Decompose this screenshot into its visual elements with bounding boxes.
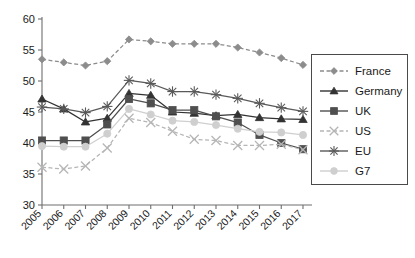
series-layer [37, 36, 308, 174]
x-tick-label-2016: 2016 [258, 207, 283, 232]
data-point-asterisk [254, 98, 264, 108]
data-point-circle [38, 143, 45, 150]
y-tick-label-35: 35 [23, 168, 35, 180]
data-point-diamond [82, 62, 89, 69]
data-point-triangle [38, 95, 46, 102]
data-point-circle [147, 111, 154, 118]
x-tick-label-2011: 2011 [149, 207, 174, 232]
data-point-square [331, 108, 338, 115]
data-point-cross [59, 165, 68, 174]
legend-item-eu[interactable]: EU [312, 141, 407, 161]
data-point-circle [82, 143, 89, 150]
data-point-cross [146, 118, 155, 127]
data-point-diamond [38, 56, 45, 63]
x-tick-label-2006: 2006 [40, 207, 65, 232]
legend-item-uk[interactable]: UK [312, 101, 407, 121]
data-point-circle [299, 131, 306, 138]
x-tick-label-2009: 2009 [105, 207, 130, 232]
x-tick-label-2010: 2010 [127, 207, 152, 232]
y-tick-label-50: 50 [23, 75, 35, 87]
legend-item-france[interactable]: France [312, 61, 407, 81]
data-point-circle [125, 105, 132, 112]
series-france [38, 36, 306, 69]
data-point-asterisk [189, 86, 199, 96]
data-point-circle [234, 125, 241, 132]
y-tick-label-60: 60 [23, 13, 35, 25]
data-point-cross [190, 135, 199, 144]
x-tick-label-2017: 2017 [279, 207, 304, 232]
data-point-diamond [256, 49, 263, 56]
data-point-diamond [147, 38, 154, 45]
data-point-square [147, 100, 154, 107]
data-point-square [104, 121, 111, 128]
data-point-asterisk [276, 102, 286, 112]
data-point-asterisk [59, 104, 69, 114]
x-axis-tick-labels: 2005200620072008200920102011201220132014… [18, 207, 304, 232]
x-tick-label-2014: 2014 [214, 207, 239, 232]
x-tick-label-2013: 2013 [192, 207, 217, 232]
data-point-diamond [278, 54, 285, 61]
data-point-asterisk [329, 146, 339, 156]
y-tick-label-55: 55 [23, 44, 35, 56]
legend-swatch-square-icon [318, 104, 350, 118]
data-point-triangle [234, 110, 242, 117]
data-point-diamond [104, 58, 111, 65]
data-point-asterisk [146, 78, 156, 88]
legend-swatch-diamond-icon [318, 64, 350, 78]
data-point-asterisk [211, 89, 221, 99]
data-point-asterisk [233, 93, 243, 103]
data-point-circle [212, 121, 219, 128]
data-point-diamond [191, 40, 198, 47]
y-axis-tick-labels: 30354045505560 [23, 13, 35, 211]
chart-legend: FranceGermanyUKUSEUG7 [311, 54, 408, 185]
data-point-cross [168, 127, 177, 136]
data-point-circle [60, 143, 67, 150]
x-tick-label-2007: 2007 [62, 207, 87, 232]
data-point-asterisk [167, 86, 177, 96]
y-tick-label-45: 45 [23, 106, 35, 118]
data-point-asterisk [298, 106, 308, 116]
legend-swatch-cross-icon [318, 124, 350, 138]
data-point-circle [331, 168, 338, 175]
data-point-circle [278, 129, 285, 136]
data-point-square [191, 107, 198, 114]
legend-label: US [355, 124, 371, 138]
data-point-cross [255, 141, 264, 150]
data-point-diamond [169, 40, 176, 47]
data-point-circle [256, 128, 263, 135]
data-point-cross [330, 127, 339, 136]
legend-label: EU [355, 144, 371, 158]
data-point-circle [104, 130, 111, 137]
data-point-asterisk [102, 101, 112, 111]
chart-container: 30354045505560 2005200620072008200920102… [0, 0, 415, 258]
data-point-diamond [299, 61, 306, 68]
data-point-circle [191, 118, 198, 125]
data-point-asterisk [80, 107, 90, 117]
data-point-asterisk [124, 75, 134, 85]
data-point-diamond [212, 40, 219, 47]
data-point-diamond [234, 44, 241, 51]
legend-swatch-triangle-icon [318, 84, 350, 98]
data-point-square [169, 107, 176, 114]
data-point-square [212, 113, 219, 120]
legend-swatch-asterisk-icon [318, 144, 350, 158]
data-point-square [125, 95, 132, 102]
legend-label: G7 [355, 164, 370, 178]
legend-item-germany[interactable]: Germany [312, 81, 407, 101]
x-tick-label-2015: 2015 [236, 207, 261, 232]
data-point-asterisk [37, 102, 47, 112]
legend-swatch-circle-icon [318, 164, 350, 178]
legend-label: France [355, 64, 391, 78]
y-tick-label-40: 40 [23, 137, 35, 149]
legend-item-us[interactable]: US [312, 121, 407, 141]
legend-label: UK [355, 104, 371, 118]
data-point-cross [103, 143, 112, 152]
x-tick-label-2008: 2008 [84, 207, 109, 232]
x-tick-label-2012: 2012 [171, 207, 196, 232]
legend-label: Germany [355, 84, 402, 98]
data-point-diamond [331, 68, 338, 75]
legend-item-g7[interactable]: G7 [312, 161, 407, 181]
data-point-circle [169, 117, 176, 124]
data-point-diamond [60, 59, 67, 66]
